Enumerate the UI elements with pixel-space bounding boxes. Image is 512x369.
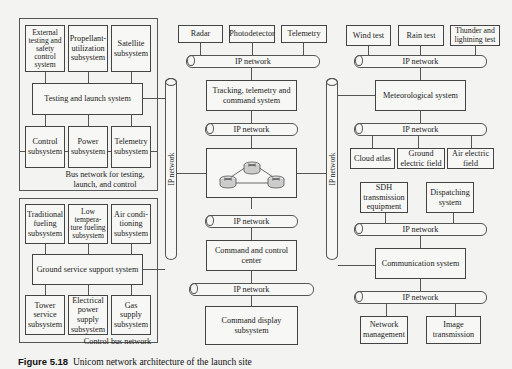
- router-icon: [244, 162, 260, 174]
- communication-system: Communication system: [375, 248, 466, 279]
- wind-test-box: Wind test: [346, 25, 391, 46]
- right-ip-network-4: IP network: [354, 291, 487, 304]
- air-conditioning-box: Air condi-tioning subsystem: [111, 204, 151, 244]
- center-ip-network-4: IP network: [189, 283, 314, 296]
- sdh-transmission-box: SDH transmission equipment: [360, 182, 408, 213]
- network-management-box: Network management: [360, 316, 408, 344]
- ground-service-support-system: Ground service support system: [32, 254, 143, 285]
- right-ip-network-2: IP network: [354, 123, 487, 136]
- right-ip-network-1: IP network: [354, 55, 487, 68]
- cloud-atlas-box: Cloud atlas: [350, 148, 395, 169]
- control-bus-label: Control bus network: [80, 337, 155, 347]
- traditional-fueling-box: Traditional fueling subsystem: [25, 204, 65, 244]
- figure-caption: Figure 5.18 Unicom network architecture …: [18, 356, 252, 367]
- radar-box: Radar: [178, 25, 223, 43]
- low-temp-fueling-box: Low tempera-ture fueling subsystem: [68, 204, 108, 244]
- center-ip-network-1: IP network: [186, 55, 320, 68]
- center-ip-network-2: IP network: [205, 123, 298, 136]
- right-ip-network-3: IP network: [354, 223, 487, 236]
- thunder-lightning-test-box: Thunder and lightning test: [450, 25, 500, 46]
- tracking-telemetry-command-system: Tracking, telemetry and command system: [206, 80, 297, 111]
- telemetry-box: Telemetry: [281, 25, 327, 43]
- center-ip-network-3: IP network: [205, 215, 298, 228]
- image-transmission-box: Image transmission: [426, 316, 481, 344]
- gas-supply-box: Gas supply subsystem: [111, 295, 151, 335]
- left-ip-backbone: IP network: [165, 78, 177, 260]
- photodetector-box: Photodetector: [229, 25, 275, 43]
- ground-electric-field-box: Ground electric field: [397, 148, 445, 169]
- router-icon: [268, 176, 284, 188]
- rain-test-box: Rain test: [398, 25, 444, 46]
- router-icon-group: [212, 151, 292, 195]
- tower-service-box: Tower service subsystem: [25, 295, 65, 335]
- dispatching-system-box: Dispatching system: [426, 182, 474, 213]
- air-electric-field-box: Air electric field: [447, 148, 494, 169]
- meteorological-system: Meteorological system: [375, 80, 466, 111]
- electrical-power-box: Electrical power supply subsystem: [68, 295, 108, 335]
- command-control-center: Command and control center: [206, 240, 297, 271]
- router-icon: [220, 176, 236, 188]
- right-ip-backbone: IP network: [326, 78, 338, 260]
- command-display-subsystem: Command display subsystem: [205, 306, 298, 345]
- router-cluster: [206, 148, 297, 198]
